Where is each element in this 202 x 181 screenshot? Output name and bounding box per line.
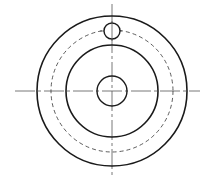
flange-drawing bbox=[0, 0, 202, 181]
